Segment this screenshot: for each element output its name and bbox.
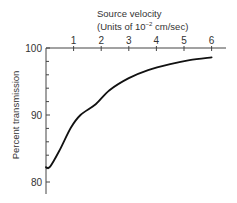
x-tick-label: 1 <box>71 35 77 46</box>
x-axis-title: Source velocity <box>97 8 161 19</box>
x-tick-label: 3 <box>126 35 132 46</box>
x-units-suffix: cm/sec) <box>152 21 188 32</box>
x-tick-label: 5 <box>181 35 187 46</box>
x-axis-units: (Units of 10−2 cm/sec) <box>97 21 188 32</box>
y-axis-label: Percent transmission <box>10 71 21 160</box>
x-units-prefix: (Units of 10 <box>97 21 146 32</box>
x-tick-label: 2 <box>98 35 104 46</box>
transmission-curve <box>46 57 212 168</box>
y-tick-label: 80 <box>31 177 43 188</box>
x-tick-label: 6 <box>209 35 215 46</box>
y-tick-label: 100 <box>25 43 42 54</box>
y-tick-label: 90 <box>31 110 43 121</box>
x-tick-label: 4 <box>154 35 160 46</box>
